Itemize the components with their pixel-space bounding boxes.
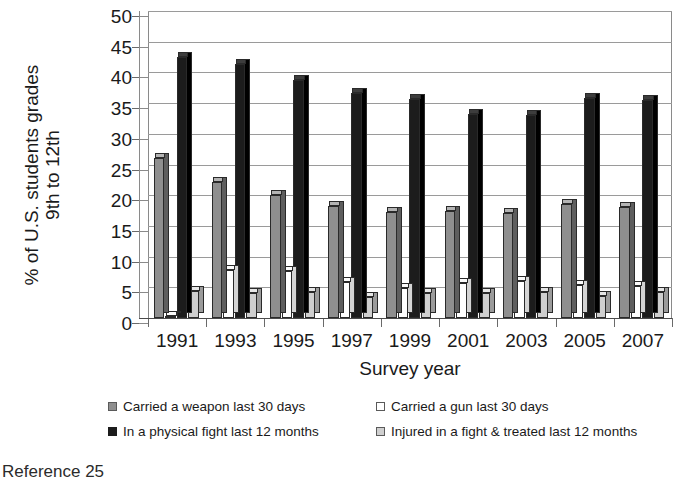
x-axis-tick-label: 1991	[156, 331, 198, 350]
y-axis-tick-mark	[132, 139, 139, 140]
chart-figure: % of U.S. students grades 9th to 12th 05…	[0, 0, 688, 484]
y-axis-tick-label: 30	[90, 129, 132, 148]
bar-group	[206, 11, 264, 318]
legend-label: Carried a weapon last 30 days	[123, 399, 305, 414]
legend-label: In a physical fight last 12 months	[123, 424, 319, 439]
y-axis-tick-label: 20	[90, 191, 132, 210]
legend-item[interactable]: In a physical fight last 12 months	[108, 424, 376, 439]
bar	[386, 212, 397, 318]
y-axis-tick-label: 10	[90, 252, 132, 271]
bar-side-3d	[339, 201, 344, 313]
bar-side-3d	[536, 110, 541, 313]
plot-area: 05101520253035404550 1991199319951997199…	[148, 11, 672, 318]
bar	[561, 204, 572, 318]
bar-side-3d	[572, 199, 577, 313]
bar-group	[381, 11, 439, 318]
bar	[177, 57, 188, 318]
bar-side-3d	[245, 59, 250, 313]
y-axis-tick-mark	[132, 292, 139, 293]
bar-side-3d	[234, 265, 239, 314]
x-axis-tick-label: 1997	[331, 331, 373, 350]
x-axis-tick-mark	[323, 318, 324, 327]
bar-side-3d	[281, 190, 286, 313]
x-axis-line	[139, 318, 672, 319]
y-axis-tick-mark	[132, 262, 139, 263]
legend-item[interactable]: Carried a weapon last 30 days	[108, 399, 376, 414]
y-axis-tick-mark	[132, 200, 139, 201]
legend-swatch-icon	[376, 427, 385, 436]
y-axis-tick-label: 0	[90, 314, 132, 333]
bar	[328, 206, 339, 318]
bar-side-3d	[455, 206, 460, 313]
x-axis-title: Survey year	[148, 358, 672, 380]
bar-side-3d	[653, 95, 658, 313]
bar-face	[212, 182, 223, 318]
x-axis-tick-mark	[381, 318, 382, 327]
x-axis-tick-mark	[556, 318, 557, 327]
y-axis-tick-mark	[132, 231, 139, 232]
x-axis-tick-mark	[672, 318, 673, 327]
bar	[619, 207, 630, 318]
x-axis-tick-mark	[439, 318, 440, 327]
x-axis-tick-mark	[206, 318, 207, 327]
bar	[445, 211, 456, 318]
bar	[154, 158, 165, 318]
bar-series-container	[148, 11, 672, 318]
bar-side-3d	[350, 277, 355, 313]
bar-group	[614, 11, 672, 318]
bar-group	[497, 11, 555, 318]
x-axis-tick-label: 1993	[214, 331, 256, 350]
x-axis-tick-label: 2001	[447, 331, 489, 350]
y-axis-tick-mark	[132, 323, 139, 324]
bar-side-3d	[420, 94, 425, 313]
y-axis-tick-label: 35	[90, 99, 132, 118]
legend-label: Carried a gun last 30 days	[391, 399, 549, 414]
legend-item[interactable]: Carried a gun last 30 days	[376, 399, 668, 414]
y-axis-tick-mark	[132, 170, 139, 171]
x-axis-tick-label: 1995	[272, 331, 314, 350]
y-axis-tick-label: 50	[90, 7, 132, 26]
legend-label: Injured in a fight & treated last 12 mon…	[391, 424, 637, 439]
y-axis-tick-mark	[132, 108, 139, 109]
bar-side-3d	[304, 75, 309, 313]
x-axis-tick-label: 2003	[505, 331, 547, 350]
y-axis-title-line-1: % of U.S. students grades	[21, 65, 42, 286]
bar-group	[323, 11, 381, 318]
bar-side-3d	[467, 278, 472, 313]
bar-face	[619, 207, 630, 318]
bar-face	[270, 195, 281, 318]
bar-side-3d	[478, 109, 483, 313]
y-axis-tick-label: 5	[90, 283, 132, 302]
y-axis-tick-label: 45	[90, 37, 132, 56]
bar-group	[264, 11, 322, 318]
y-axis-tick-label: 40	[90, 68, 132, 87]
bar	[270, 195, 281, 318]
chart-legend: Carried a weapon last 30 daysCarried a g…	[108, 399, 668, 439]
bar-face	[154, 158, 165, 318]
bar-side-3d	[222, 177, 227, 313]
x-axis-tick-mark	[264, 318, 265, 327]
bar-side-3d	[595, 93, 600, 313]
y-axis-title-line-2: 9th to 12th	[42, 130, 63, 220]
bar-group	[556, 11, 614, 318]
bar-face	[561, 204, 572, 318]
bar-face	[503, 213, 514, 318]
bar-side-3d	[362, 88, 367, 313]
y-axis-tick-mark	[132, 16, 139, 17]
bar-group	[148, 11, 206, 318]
legend-item[interactable]: Injured in a fight & treated last 12 mon…	[376, 424, 668, 439]
bar-side-3d	[525, 276, 530, 313]
bar-side-3d	[187, 52, 192, 313]
bar	[212, 182, 223, 318]
x-axis-tick-mark	[497, 318, 498, 327]
bar	[165, 316, 176, 318]
legend-swatch-icon	[108, 402, 117, 411]
bar-side-3d	[292, 266, 297, 313]
bar-face	[177, 57, 188, 318]
bar-face	[386, 212, 397, 318]
legend-swatch-icon	[376, 402, 385, 411]
y-axis-tick-mark	[132, 47, 139, 48]
x-axis-tick-mark	[614, 318, 615, 327]
bar-face	[328, 206, 339, 318]
bar-side-3d	[164, 153, 169, 313]
